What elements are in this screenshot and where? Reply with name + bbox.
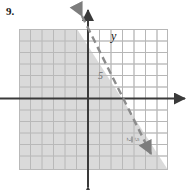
y-axis-label: y (111, 29, 116, 44)
y-intercept-label: 5 (98, 70, 103, 81)
coordinate-plane: 5 5 2 y x (19, 29, 168, 170)
graph-figure: 9. (0, 0, 192, 190)
x-intercept-numerator: 5 (133, 137, 140, 143)
x-intercept-denominator: 2 (125, 137, 132, 143)
x-intercept-label: 5 2 (125, 137, 140, 143)
boundary-line (9, 4, 179, 184)
